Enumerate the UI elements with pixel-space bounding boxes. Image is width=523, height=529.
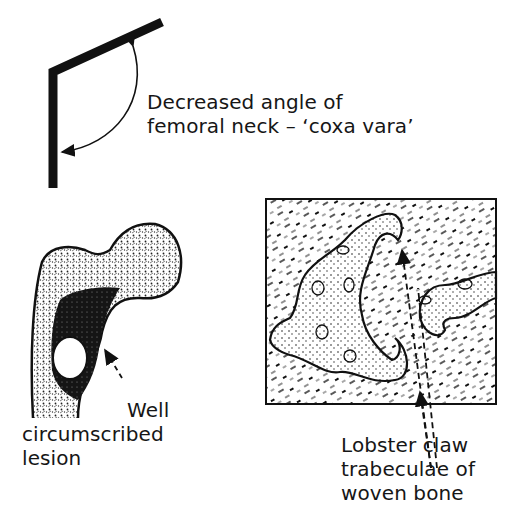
trabeculae-label-line-3: woven bone	[341, 481, 475, 505]
coxa-vara-angle-drawing	[53, 22, 162, 188]
lesion-label-line-3: lesion	[22, 446, 169, 470]
histology-drawing	[266, 199, 496, 468]
trabeculae-label-line-2: trabeculae of	[341, 457, 475, 481]
coxa-vara-label-line-2: femoral neck – ‘coxa vara’	[147, 114, 414, 138]
lesion-label: Well circumscribed lesion	[22, 398, 169, 470]
lesion-label-line-2: circumscribed	[22, 422, 169, 446]
femur-lesion-drawing	[32, 224, 181, 418]
trabeculae-label-line-1: Lobster claw	[341, 433, 475, 457]
lesion-label-line-1: Well	[22, 398, 169, 422]
coxa-vara-label-line-1: Decreased angle of	[147, 90, 414, 114]
coxa-vara-label: Decreased angle of femoral neck – ‘coxa …	[147, 90, 414, 138]
trabeculae-label: Lobster claw trabeculae of woven bone	[341, 433, 475, 505]
